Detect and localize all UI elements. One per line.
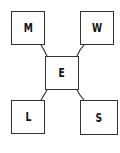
node-m: M	[11, 11, 45, 45]
node-l: L	[11, 100, 45, 134]
node-s: S	[80, 100, 118, 135]
edge-e-l	[41, 90, 47, 100]
node-label: L	[25, 110, 31, 124]
node-label: E	[59, 66, 65, 80]
node-w: W	[80, 11, 114, 45]
node-e: E	[45, 56, 79, 90]
node-label: W	[92, 21, 102, 35]
edge-e-m	[41, 45, 47, 56]
node-label: M	[23, 21, 32, 35]
node-label: S	[96, 111, 103, 125]
edge-e-w	[77, 45, 84, 56]
edge-e-s	[77, 90, 84, 100]
